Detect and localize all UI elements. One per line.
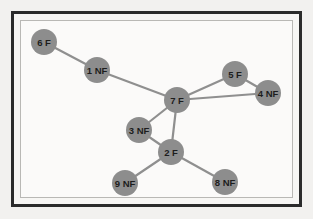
graph-node-5[interactable]: 5 F	[222, 61, 248, 87]
graph-node-6[interactable]: 6 F	[31, 29, 57, 55]
graph-node-circle-3[interactable]	[126, 117, 152, 143]
graph-node-circle-7[interactable]	[164, 87, 190, 113]
graph-node-1[interactable]: 1 NF	[84, 57, 110, 83]
graph-node-8[interactable]: 8 NF	[212, 169, 238, 195]
graph-node-circle-5[interactable]	[222, 61, 248, 87]
graph-node-9[interactable]: 9 NF	[112, 170, 138, 196]
graph-node-circle-9[interactable]	[112, 170, 138, 196]
graph-node-circle-1[interactable]	[84, 57, 110, 83]
graph-svg: 1 NF2 F3 NF4 NF5 F6 F7 F8 NF9 NF	[0, 0, 313, 219]
graph-node-7[interactable]: 7 F	[164, 87, 190, 113]
graph-node-2[interactable]: 2 F	[158, 139, 184, 165]
graph-node-circle-8[interactable]	[212, 169, 238, 195]
graph-node-circle-6[interactable]	[31, 29, 57, 55]
graph-node-circle-4[interactable]	[255, 80, 281, 106]
graph-node-circle-2[interactable]	[158, 139, 184, 165]
graph-node-3[interactable]: 3 NF	[126, 117, 152, 143]
diagram-canvas: 1 NF2 F3 NF4 NF5 F6 F7 F8 NF9 NF	[0, 0, 313, 219]
graph-node-4[interactable]: 4 NF	[255, 80, 281, 106]
